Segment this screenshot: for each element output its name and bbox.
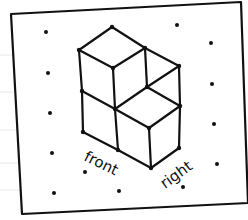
isometric-drawing: front right bbox=[0, 0, 248, 220]
